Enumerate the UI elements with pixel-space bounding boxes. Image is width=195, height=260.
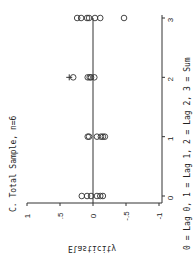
y-tick-label: 0 [89, 213, 98, 218]
x-tick-label: 2 [166, 77, 175, 82]
x-tick-label: 1 [166, 136, 175, 141]
labels: C. Total Sample, n=6 0 = Lag 0, 1 = Lag … [9, 57, 192, 253]
x-tick-label: 0 [166, 195, 175, 200]
data-point [121, 15, 127, 21]
axes: 1.50-.5-10123 [23, 15, 175, 221]
y-tick-label: .5 [56, 212, 65, 219]
y-axis-title: Elasticity [68, 244, 116, 253]
x-axis-title: 0 = Lag 0, 1 = Lag 1, 2 = Lag 2, 3 = Sum [183, 57, 192, 250]
data-marks [66, 15, 127, 199]
x-tick-label: 3 [166, 17, 175, 22]
data-point [78, 15, 84, 21]
y-tick-label: -1 [155, 212, 164, 220]
y-tick-label: 1 [23, 213, 32, 218]
elasticity-chart: 1.50-.5-10123 C. Total Sample, n=6 0 = L… [0, 0, 195, 260]
data-point [97, 15, 103, 21]
y-tick-label: -.5 [122, 211, 131, 221]
data-point [79, 193, 85, 199]
chart-title: C. Total Sample, n=6 [9, 115, 18, 212]
